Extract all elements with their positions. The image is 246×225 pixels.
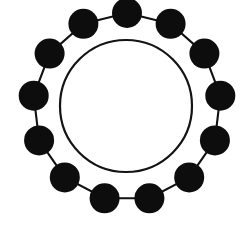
- graph-node: [90, 183, 120, 213]
- graph-node: [19, 81, 49, 111]
- graph-node: [112, 0, 142, 28]
- graph-node: [134, 183, 164, 213]
- graph-node: [68, 9, 98, 39]
- graph-node: [189, 39, 219, 69]
- graph-node: [35, 39, 65, 69]
- ring-graph-diagram: [0, 0, 246, 225]
- graph-node: [205, 81, 235, 111]
- graph-node: [24, 125, 54, 155]
- graph-node: [174, 162, 204, 192]
- inner-circle: [60, 40, 192, 172]
- graph-node: [156, 9, 186, 39]
- figure-root: [0, 0, 246, 225]
- graph-node: [200, 125, 230, 155]
- graph-nodes-group: [19, 0, 236, 213]
- graph-node: [50, 162, 80, 192]
